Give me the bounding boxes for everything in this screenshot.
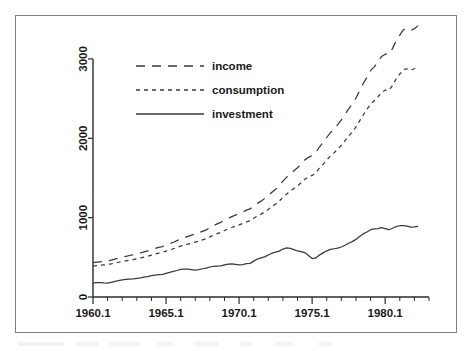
figure-frame-border: 01000200030001960.11965.11970.11975.1198… <box>15 15 457 333</box>
series-line-income <box>93 26 418 263</box>
y-tick-label: 0 <box>77 294 89 300</box>
x-tick-label: 1965.1 <box>148 307 184 319</box>
y-tick-label: 1000 <box>77 205 89 231</box>
line-chart: 01000200030001960.11965.11970.11975.1198… <box>16 16 456 332</box>
x-tick-label: 1980.1 <box>368 307 404 319</box>
series-line-investment <box>93 226 418 283</box>
y-tick-label: 3000 <box>77 46 89 72</box>
legend-label-investment: investment <box>212 108 273 120</box>
x-tick-label: 1960.1 <box>75 307 111 319</box>
series-line-consumption <box>93 66 418 266</box>
legend-label-income: income <box>212 60 252 72</box>
x-tick-label: 1970.1 <box>221 307 257 319</box>
figure-root: 01000200030001960.11965.11970.11975.1198… <box>0 0 476 351</box>
y-tick-label: 2000 <box>77 125 89 151</box>
caption-smudge <box>18 339 438 348</box>
x-tick-label: 1975.1 <box>295 307 331 319</box>
legend-label-consumption: consumption <box>212 84 284 96</box>
